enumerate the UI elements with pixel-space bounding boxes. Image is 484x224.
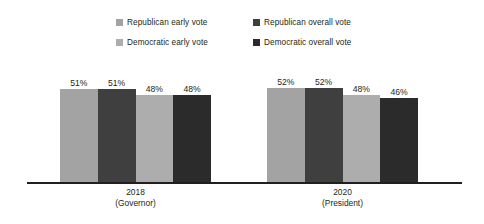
bar bbox=[136, 95, 174, 182]
legend-label: Democratic early vote bbox=[127, 38, 208, 47]
bar-cell: 48% bbox=[136, 62, 174, 182]
legend-label: Republican early vote bbox=[127, 18, 207, 27]
bar-value-label: 48% bbox=[173, 84, 211, 94]
bar-chart: Republican early vote Republican overall… bbox=[0, 0, 484, 224]
plot-area: 51%51%48%48% 52%52%48%46% bbox=[0, 60, 484, 184]
legend-label: Republican overall vote bbox=[264, 18, 351, 27]
legend-swatch-icon bbox=[116, 39, 123, 46]
bar-cell: 46% bbox=[380, 62, 418, 182]
bar bbox=[305, 88, 343, 182]
x-axis-category-labels: 2018 (Governor) 2020 (President) bbox=[0, 187, 484, 217]
bar bbox=[98, 89, 136, 182]
bar-cell: 51% bbox=[60, 62, 98, 182]
legend-item-democratic-early-vote: Democratic early vote bbox=[116, 38, 253, 47]
category-label-line1: 2020 bbox=[333, 187, 352, 197]
bar-cell: 48% bbox=[343, 62, 381, 182]
bar-value-label: 52% bbox=[305, 77, 343, 87]
x-axis-baseline bbox=[27, 182, 462, 184]
bar-value-label: 46% bbox=[380, 87, 418, 97]
bar-cell: 51% bbox=[98, 62, 136, 182]
legend-label: Democratic overall vote bbox=[264, 38, 351, 47]
category-label-2020: 2020 (President) bbox=[267, 187, 418, 209]
category-label-line1: 2018 bbox=[126, 187, 145, 197]
bar bbox=[267, 88, 305, 182]
bar bbox=[60, 89, 98, 182]
bar-group-2020: 52%52%48%46% bbox=[267, 62, 418, 182]
bar-value-label: 51% bbox=[60, 78, 98, 88]
legend-swatch-icon bbox=[253, 19, 260, 26]
bar-cell: 52% bbox=[305, 62, 343, 182]
legend-swatch-icon bbox=[253, 39, 260, 46]
bar bbox=[380, 98, 418, 182]
category-label-line2: (Governor) bbox=[60, 198, 211, 209]
chart-legend: Republican early vote Republican overall… bbox=[116, 12, 416, 52]
bar-group-2018: 51%51%48%48% bbox=[60, 62, 211, 182]
category-label-line2: (President) bbox=[267, 198, 418, 209]
bar-value-label: 48% bbox=[343, 84, 381, 94]
legend-item-republican-early-vote: Republican early vote bbox=[116, 18, 253, 27]
bar-set: 51%51%48%48% bbox=[60, 62, 211, 182]
bar-value-label: 48% bbox=[136, 84, 174, 94]
category-label-2018: 2018 (Governor) bbox=[60, 187, 211, 209]
bar-value-label: 51% bbox=[98, 78, 136, 88]
legend-item-democratic-overall-vote: Democratic overall vote bbox=[253, 38, 416, 47]
bar-cell: 52% bbox=[267, 62, 305, 182]
bar-set: 52%52%48%46% bbox=[267, 62, 418, 182]
legend-item-republican-overall-vote: Republican overall vote bbox=[253, 18, 416, 27]
legend-swatch-icon bbox=[116, 19, 123, 26]
bar-cell: 48% bbox=[173, 62, 211, 182]
bar bbox=[343, 95, 381, 182]
bar bbox=[173, 95, 211, 182]
bar-value-label: 52% bbox=[267, 77, 305, 87]
